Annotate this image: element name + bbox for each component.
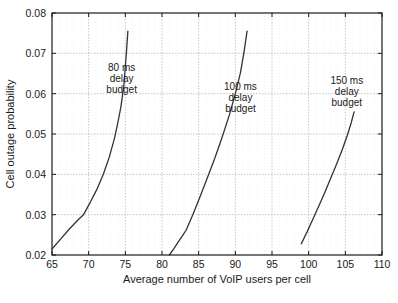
annotation-80ms: 80 msdelaybudget bbox=[106, 62, 137, 95]
x-tick-label: 85 bbox=[193, 258, 205, 270]
annotation-line: 100 ms bbox=[224, 81, 257, 92]
grid-lines bbox=[52, 13, 382, 255]
series-line bbox=[301, 112, 354, 244]
y-tick-label: 0.08 bbox=[26, 7, 47, 19]
y-tick-label: 0.05 bbox=[26, 128, 47, 140]
x-axis-title: Average number of VoIP users per cell bbox=[123, 273, 311, 285]
annotation-100ms: 100 msdelaybudget bbox=[224, 81, 257, 114]
chart-figure: 65707580859095100105110 0.020.030.040.05… bbox=[0, 0, 398, 303]
y-tick-label: 0.07 bbox=[26, 47, 47, 59]
x-tick-label: 90 bbox=[229, 258, 241, 270]
annotation-line: delay bbox=[229, 92, 253, 103]
x-tick-label: 75 bbox=[119, 258, 131, 270]
x-tick-label: 80 bbox=[156, 258, 168, 270]
x-tick-label: 95 bbox=[266, 258, 278, 270]
curve-annotations: 80 msdelaybudget100 msdelaybudget150 msd… bbox=[106, 62, 363, 113]
x-axis-tick-labels: 65707580859095100105110 bbox=[46, 258, 390, 270]
x-tick-label: 105 bbox=[337, 258, 355, 270]
annotation-line: 80 ms bbox=[108, 62, 135, 73]
y-tick-label: 0.06 bbox=[26, 88, 47, 100]
x-tick-label: 110 bbox=[374, 258, 391, 270]
annotation-line: 150 ms bbox=[330, 75, 363, 86]
x-tick-label: 65 bbox=[46, 258, 58, 270]
chart-plot-area: 65707580859095100105110 0.020.030.040.05… bbox=[0, 0, 398, 303]
y-axis-tick-labels: 0.020.030.040.050.060.070.08 bbox=[26, 7, 47, 261]
annotation-150ms: 150 msdelaybudget bbox=[330, 75, 363, 108]
x-tick-label: 100 bbox=[300, 258, 318, 270]
y-tick-label: 0.02 bbox=[26, 249, 47, 261]
annotation-line: budget bbox=[332, 97, 363, 108]
annotation-line: delay bbox=[335, 86, 359, 97]
annotation-line: budget bbox=[225, 103, 256, 114]
y-axis-title: Cell outage probability bbox=[4, 79, 16, 188]
x-tick-label: 70 bbox=[83, 258, 95, 270]
y-tick-label: 0.03 bbox=[26, 209, 47, 221]
annotation-line: delay bbox=[110, 73, 134, 84]
annotation-line: budget bbox=[106, 84, 137, 95]
y-tick-label: 0.04 bbox=[26, 168, 47, 180]
